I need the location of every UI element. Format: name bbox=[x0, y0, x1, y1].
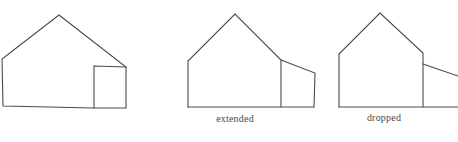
figure-original bbox=[2, 15, 126, 108]
house-outline-dropped bbox=[339, 13, 423, 107]
house-outline-original bbox=[2, 15, 126, 108]
label-dropped: dropped bbox=[367, 112, 401, 123]
annex-roof-dropped bbox=[423, 64, 458, 76]
house-outline-extended bbox=[188, 14, 281, 107]
figure-extended bbox=[188, 14, 315, 107]
label-extended: extended bbox=[216, 113, 254, 124]
annex-outline-original bbox=[94, 66, 126, 108]
figure-dropped bbox=[339, 13, 458, 107]
annex-outline-extended bbox=[281, 60, 315, 107]
